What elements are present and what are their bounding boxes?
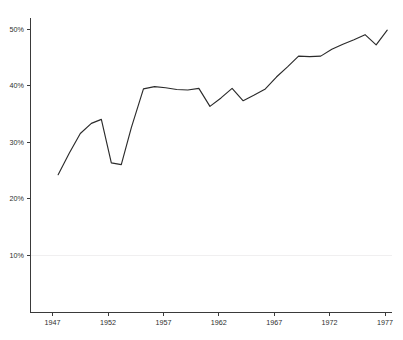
line-chart: 10%20%30%40%50% 194719521957196219671972…: [0, 0, 403, 340]
y-axis-ticks: 10%20%30%40%50%: [10, 25, 30, 260]
y-tick-label: 20%: [10, 194, 25, 203]
x-tick-label: 1967: [266, 318, 282, 327]
x-axis: 1947195219571962196719721977: [30, 312, 393, 327]
x-tick-label: 1952: [100, 318, 116, 327]
x-tick-label: 1972: [322, 318, 338, 327]
chart-container: 10%20%30%40%50% 194719521957196219671972…: [0, 0, 403, 340]
x-tick-label: 1957: [155, 318, 171, 327]
x-tick-label: 1947: [45, 318, 61, 327]
y-tick-label: 50%: [10, 25, 25, 34]
y-axis: 10%20%30%40%50%: [10, 18, 30, 312]
y-tick-label: 10%: [10, 251, 25, 260]
y-tick-label: 30%: [10, 138, 25, 147]
data-series: [58, 30, 387, 175]
x-tick-label: 1977: [377, 318, 393, 327]
series-1-line: [58, 30, 387, 175]
x-axis-ticks: 1947195219571962196719721977: [45, 312, 393, 327]
x-tick-label: 1962: [211, 318, 227, 327]
y-tick-label: 40%: [10, 81, 25, 90]
